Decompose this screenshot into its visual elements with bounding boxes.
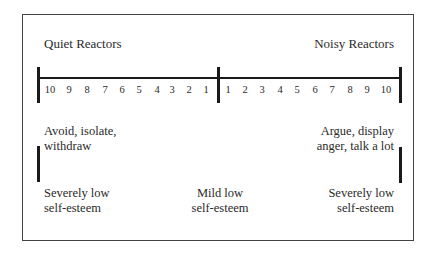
quiet-behavior-description: Avoid, isolate, withdraw — [44, 124, 116, 154]
scale-number: 3 — [255, 84, 269, 95]
scale-center-tick — [217, 67, 220, 103]
scale-number: 8 — [80, 84, 94, 95]
scale-number: 4 — [150, 84, 164, 95]
right-self-esteem-label: Severely low self-esteem — [328, 186, 394, 216]
scale-number: 1 — [199, 84, 213, 95]
scale-number: 6 — [308, 84, 322, 95]
scale-right-end-tick — [399, 67, 402, 103]
right-marker-bar — [399, 147, 402, 183]
scale-number: 5 — [132, 84, 146, 95]
scale-number: 10 — [379, 84, 393, 95]
scale-number: 8 — [343, 84, 357, 95]
left-marker-bar — [37, 146, 40, 182]
left-self-esteem-label: Severely low self-esteem — [44, 186, 110, 216]
scale-number: 6 — [115, 84, 129, 95]
scale-number: 1 — [221, 84, 235, 95]
scale-number: 9 — [62, 84, 76, 95]
scale-left-end-tick — [37, 67, 40, 103]
scale-number: 2 — [182, 84, 196, 95]
noisy-reactors-title: Noisy Reactors — [314, 36, 394, 52]
scale-number: 2 — [238, 84, 252, 95]
scale-number: 10 — [43, 84, 57, 95]
scale-number: 9 — [360, 84, 374, 95]
scale-number: 4 — [273, 84, 287, 95]
noisy-behavior-description: Argue, display anger, talk a lot — [317, 124, 394, 154]
quiet-reactors-title: Quiet Reactors — [44, 36, 122, 52]
scale-number: 7 — [325, 84, 339, 95]
scale-number: 3 — [165, 84, 179, 95]
scale-number: 7 — [98, 84, 112, 95]
center-self-esteem-label: Mild low self-esteem — [160, 186, 280, 216]
scale-number: 5 — [290, 84, 304, 95]
